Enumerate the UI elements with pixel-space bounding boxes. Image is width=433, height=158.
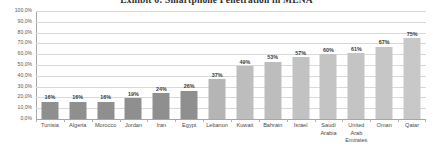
- bar[interactable]: [264, 62, 281, 119]
- bar-value-label: 60%: [323, 47, 334, 53]
- bar[interactable]: [236, 66, 253, 119]
- x-axis-tick-label: Israel: [287, 122, 315, 130]
- x-axis-tick-label: Egypt: [175, 122, 203, 130]
- x-axis-tick-label: Qatar: [398, 122, 426, 130]
- x-axis-tick-label: United Arab Emirates: [342, 122, 370, 145]
- bar-group[interactable]: 60%: [315, 11, 343, 119]
- bar-value-label: 61%: [351, 46, 362, 52]
- bar-group[interactable]: 61%: [342, 11, 370, 119]
- bar-value-label: 16%: [72, 94, 83, 100]
- bar[interactable]: [125, 98, 142, 119]
- bar-value-label: 24%: [156, 86, 167, 92]
- bar[interactable]: [181, 91, 198, 119]
- bar[interactable]: [41, 102, 58, 119]
- y-axis-tick-label: 20,0%: [18, 95, 32, 100]
- bar-group[interactable]: 49%: [231, 11, 259, 119]
- bar-group[interactable]: 26%: [175, 11, 203, 119]
- bar[interactable]: [292, 57, 309, 119]
- x-axis-tick-label: Lebanon: [203, 122, 231, 130]
- x-axis-tick-label: Algeria: [64, 122, 92, 130]
- bar-value-label: 57%: [295, 50, 306, 56]
- y-axis-tick-label: 10,0%: [18, 106, 32, 111]
- y-axis-tick-label: 70,0%: [18, 41, 32, 46]
- chart-title: Exhibit 6: Smartphone Penetration in MEN…: [0, 0, 433, 6]
- y-axis-tick-label: 90,0%: [18, 19, 32, 24]
- x-axis-tick-label: Bahrain: [259, 122, 287, 130]
- bar-group[interactable]: 57%: [287, 11, 315, 119]
- bar-group[interactable]: 37%: [203, 11, 231, 119]
- bar-value-label: 49%: [240, 59, 251, 65]
- bar-group[interactable]: 75%: [398, 11, 426, 119]
- bar[interactable]: [376, 47, 393, 119]
- bar[interactable]: [209, 79, 226, 119]
- y-axis-tick-label: 60,0%: [18, 52, 32, 57]
- bar[interactable]: [320, 54, 337, 119]
- bar-value-label: 19%: [128, 91, 139, 97]
- bar-value-label: 16%: [100, 94, 111, 100]
- bar[interactable]: [348, 53, 365, 119]
- y-axis-tick-label: 80,0%: [18, 30, 32, 35]
- bar-value-label: 53%: [267, 54, 278, 60]
- bar-value-label: 26%: [184, 83, 195, 89]
- bar-value-label: 67%: [379, 39, 390, 45]
- bar[interactable]: [69, 102, 86, 119]
- x-axis-tick-label: Tunisia: [36, 122, 64, 130]
- bar-value-label: 37%: [212, 72, 223, 78]
- bar-group[interactable]: 16%: [92, 11, 120, 119]
- x-axis-tick-label: Morocco: [92, 122, 120, 130]
- plot-area: 16%16%16%19%24%26%37%49%53%57%60%61%67%7…: [36, 11, 426, 119]
- x-axis-tick-label: Iran: [147, 122, 175, 130]
- y-axis-tick-label: 30,0%: [18, 84, 32, 89]
- x-axis-label-group: TunisiaAlgeriaMoroccoJordanIranEgyptLeba…: [36, 122, 426, 156]
- bar-group[interactable]: 19%: [120, 11, 148, 119]
- bar-group[interactable]: 24%: [147, 11, 175, 119]
- bar-group[interactable]: 67%: [370, 11, 398, 119]
- x-axis-tick-label: Saudi Arabia: [315, 122, 343, 137]
- y-axis-tick-label: 100,0%: [15, 8, 32, 13]
- y-axis-tick-label: 50,0%: [18, 62, 32, 67]
- bar[interactable]: [97, 102, 114, 119]
- x-axis-tick-label: Kuwait: [231, 122, 259, 130]
- x-axis-tick-label: Oman: [370, 122, 398, 130]
- bar-value-label: 75%: [407, 31, 418, 37]
- bar-group[interactable]: 16%: [36, 11, 64, 119]
- y-axis-tick-label: 40,0%: [18, 73, 32, 78]
- chart-figure: Exhibit 6: Smartphone Penetration in MEN…: [0, 0, 433, 158]
- bar-group[interactable]: 16%: [64, 11, 92, 119]
- bar[interactable]: [153, 93, 170, 119]
- bar[interactable]: [404, 38, 421, 119]
- y-axis-tick-label: 0,0%: [20, 116, 32, 121]
- y-axis-label-group: 100,0%90,0%80,0%70,0%60,0%50,0%40,0%30,0…: [0, 11, 34, 119]
- bar-group[interactable]: 53%: [259, 11, 287, 119]
- bar-value-label: 16%: [45, 94, 56, 100]
- bar-series: 16%16%16%19%24%26%37%49%53%57%60%61%67%7…: [36, 11, 426, 119]
- x-axis-tick-label: Jordan: [120, 122, 148, 130]
